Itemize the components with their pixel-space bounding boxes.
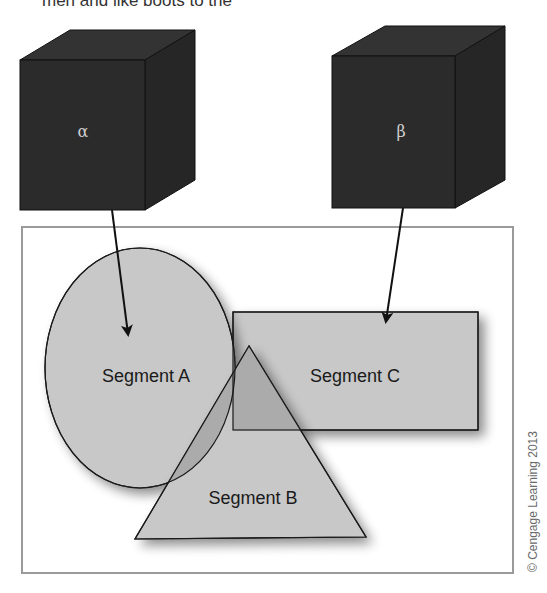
segment-a-label: Segment A: [102, 366, 190, 386]
cube-alpha-symbol: α: [78, 122, 89, 141]
cube-beta-front: [332, 56, 455, 208]
cube-beta: β: [332, 26, 505, 208]
cube-beta-symbol: β: [396, 122, 405, 141]
segment-c-label: Segment C: [310, 366, 400, 386]
cube-beta-side: [455, 26, 505, 208]
copyright-credit: © Cengage Learning 2013: [526, 431, 540, 572]
segmentation-diagram: men and like boots to the α β Segment A …: [0, 0, 547, 593]
segment-b-label: Segment B: [208, 488, 297, 508]
cube-alpha: α: [20, 30, 195, 210]
cube-alpha-side: [145, 30, 195, 210]
header-text-fragment: men and like boots to the: [42, 0, 232, 10]
